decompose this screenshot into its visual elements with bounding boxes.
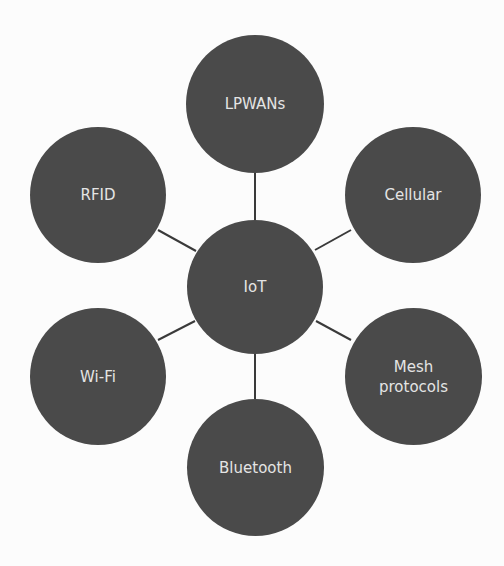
node-label: LPWANs xyxy=(225,94,286,114)
node-mesh-protocols: Mesh protocols xyxy=(345,308,482,445)
node-label: Wi-Fi xyxy=(80,367,116,387)
node-label: Bluetooth xyxy=(219,458,292,478)
node-label-line2: protocols xyxy=(379,377,448,397)
node-iot-center: IoT xyxy=(187,220,323,354)
node-cellular: Cellular xyxy=(345,127,481,263)
node-label-line1: Mesh xyxy=(394,357,434,377)
node-label: RFID xyxy=(80,185,115,205)
node-rfid: RFID xyxy=(30,127,166,263)
center-label: IoT xyxy=(244,277,267,297)
node-wifi: Wi-Fi xyxy=(30,308,166,445)
node-bluetooth: Bluetooth xyxy=(187,399,324,536)
node-lpwans: LPWANs xyxy=(186,35,324,173)
node-label: Cellular xyxy=(384,185,441,205)
